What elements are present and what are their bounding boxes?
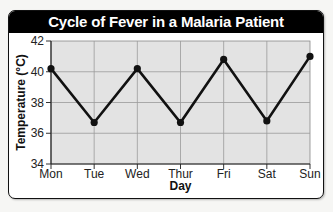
line-chart: 3436384042MonTueWedThurFriSatSunDayTempe… [0, 0, 333, 212]
data-point [306, 53, 313, 60]
y-tick-label: 42 [31, 34, 45, 48]
x-tick-label: Fri [217, 167, 231, 181]
data-point [263, 117, 270, 124]
x-tick-label: Wed [125, 167, 149, 181]
y-tick-label: 36 [31, 126, 45, 140]
x-tick-label: Tue [84, 167, 105, 181]
data-point [47, 65, 54, 72]
data-point [220, 56, 227, 63]
x-tick-label: Sat [258, 167, 277, 181]
x-axis-title: Day [169, 179, 191, 193]
y-tick-label: 38 [31, 96, 45, 110]
x-tick-label: Sun [299, 167, 320, 181]
data-point [91, 119, 98, 126]
x-tick-label: Mon [39, 167, 62, 181]
data-point [177, 119, 184, 126]
y-tick-label: 40 [31, 65, 45, 79]
data-point [134, 65, 141, 72]
y-axis-title: Temperature (°C) [14, 54, 28, 151]
